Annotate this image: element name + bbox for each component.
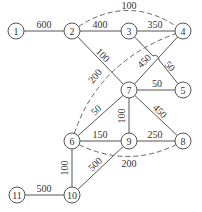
edge-weight-label-11-10: 500: [37, 183, 52, 194]
node-label: 2: [70, 26, 75, 37]
node-label: 6: [70, 136, 75, 147]
edge-weight-label-2-3: 400: [93, 19, 108, 30]
node-8: 8: [175, 133, 191, 149]
node-9: 9: [121, 133, 137, 149]
node-1: 1: [8, 23, 24, 39]
node-4: 4: [175, 23, 191, 39]
edge-weight-label-7-5: 50: [152, 78, 162, 89]
node-label: 10: [67, 190, 77, 201]
edge-2-7: [72, 31, 129, 90]
node-6: 6: [64, 133, 80, 149]
edge-labels-layer: 6004003501001005045020050501004501502502…: [37, 0, 178, 194]
node-label: 1: [14, 26, 19, 37]
node-label: 4: [181, 26, 186, 37]
edge-weight-label-6-8: 200: [122, 158, 137, 169]
edge-weight-label-7-4: 450: [135, 52, 153, 70]
edge-weight-label-9-8: 250: [148, 129, 163, 140]
node-label: 8: [181, 136, 186, 147]
edge-weight-label-7-9: 100: [116, 109, 127, 124]
node-label: 3: [127, 26, 132, 37]
edge-weight-label-2-7: 100: [94, 46, 112, 64]
node-7: 7: [121, 82, 137, 98]
node-2: 2: [64, 23, 80, 39]
edge-weight-label-6-4: 200: [86, 67, 104, 86]
node-5: 5: [175, 82, 191, 98]
node-11: 11: [9, 187, 25, 203]
edge-9-10: [72, 141, 129, 195]
node-label: 5: [181, 85, 186, 96]
node-label: 11: [12, 190, 22, 201]
node-3: 3: [121, 23, 137, 39]
edge-weight-label-3-4: 350: [148, 19, 163, 30]
node-label: 9: [127, 136, 132, 147]
edge-weight-label-3-5: 50: [163, 59, 178, 74]
node-label: 7: [127, 85, 132, 96]
edge-weight-label-7-8: 450: [151, 102, 169, 120]
edge-weight-label-6-9: 150: [93, 129, 108, 140]
edge-weight-label-1-2: 600: [37, 19, 52, 30]
edge-weight-label-6-10: 100: [59, 161, 70, 176]
edge-weight-label-9-10: 500: [86, 155, 104, 173]
node-10: 10: [64, 187, 80, 203]
network-diagram: 6004003501001005045020050501004501502502…: [0, 0, 202, 212]
edge-weight-label-2-4: 100: [122, 0, 137, 11]
